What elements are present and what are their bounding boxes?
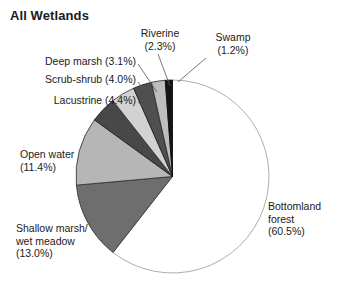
leader-line-swamp bbox=[178, 58, 206, 82]
slice-label-riverine: Riverine (2.3%) bbox=[128, 27, 192, 52]
slice-label-bottomland-forest: Bottomland forest (60.5%) bbox=[268, 200, 338, 238]
slice-label-deep-marsh: Deep marsh (3.1%) bbox=[40, 55, 136, 68]
slice-label-shallow-marsh: Shallow marsh/ wet meadow (13.0%) bbox=[16, 222, 120, 260]
slice-label-open-water: Open water (11.4%) bbox=[20, 148, 96, 173]
slice-label-swamp: Swamp (1.2%) bbox=[203, 31, 263, 56]
slice-label-scrub-shrub: Scrub-shrub (4.0%) bbox=[22, 73, 136, 86]
pie-chart-figure: All Wetlands Riverine (2.3%) Swamp (1.2%… bbox=[0, 0, 340, 293]
slice-label-lacustrine: Lacustrine (4.4%) bbox=[17, 94, 136, 107]
